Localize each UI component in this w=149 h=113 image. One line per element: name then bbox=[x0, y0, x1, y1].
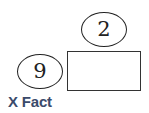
top-number-oval: 2 bbox=[81, 12, 127, 47]
answer-box[interactable] bbox=[67, 51, 141, 91]
top-number: 2 bbox=[97, 19, 110, 40]
left-number-oval: 9 bbox=[17, 54, 63, 89]
diagram-title: X Fact bbox=[8, 93, 52, 110]
left-number: 9 bbox=[33, 61, 46, 82]
